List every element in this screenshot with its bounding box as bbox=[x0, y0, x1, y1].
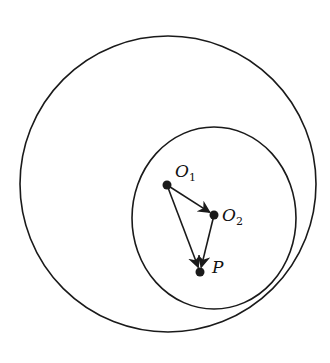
diagram-canvas: O1O2P bbox=[0, 0, 330, 363]
label-o2: O2 bbox=[222, 207, 243, 227]
label-o1: O1 bbox=[175, 163, 196, 183]
point-o1 bbox=[163, 181, 172, 190]
vector-o1-p bbox=[167, 185, 198, 267]
circles-diagram bbox=[0, 0, 330, 363]
label-p: P bbox=[212, 259, 223, 276]
vector-o1-o2 bbox=[167, 185, 210, 212]
point-o2 bbox=[210, 211, 219, 220]
point-p bbox=[196, 268, 205, 277]
